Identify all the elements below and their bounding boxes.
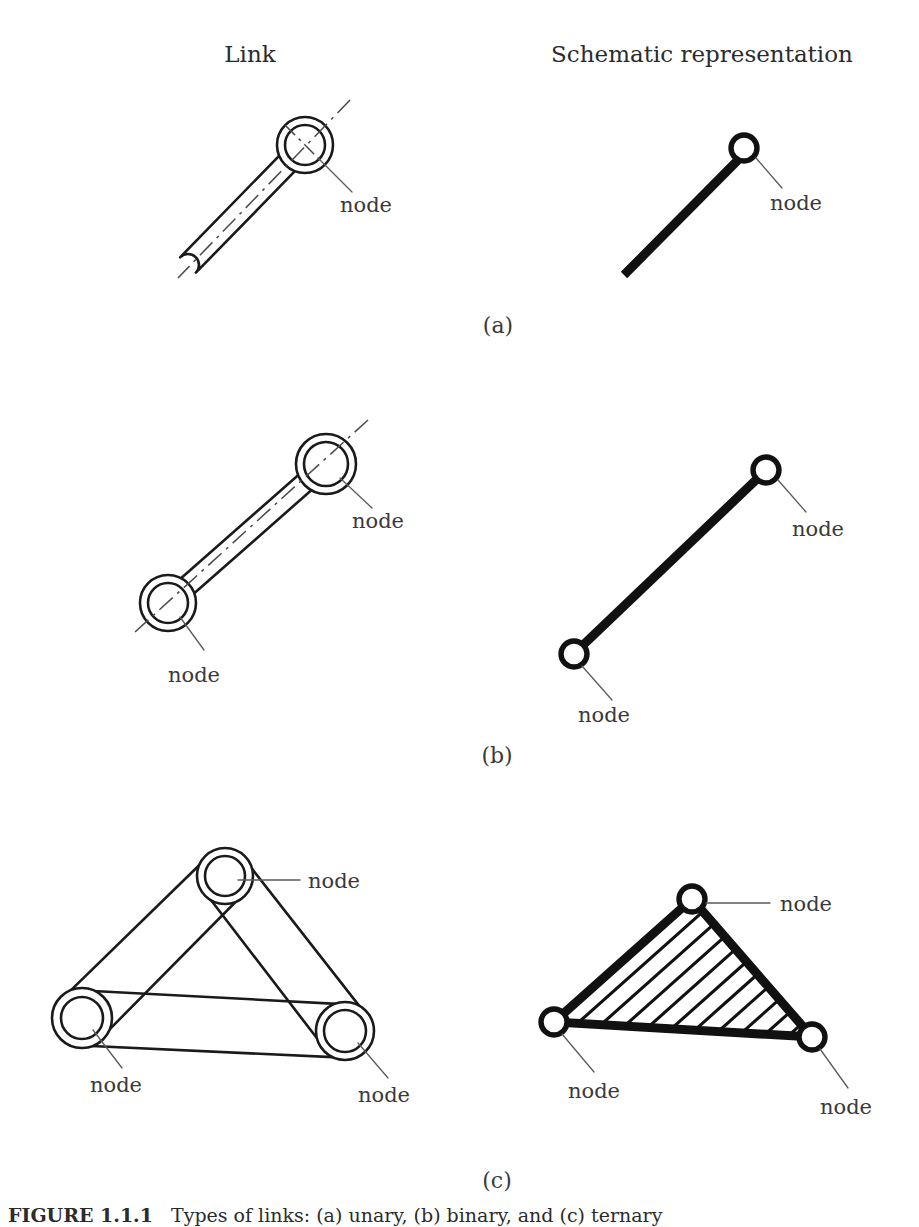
panel-c-link-node-label-1: node (308, 869, 360, 893)
panel-c-edge-1-side-1 (63, 858, 207, 999)
column-header-link: Link (224, 41, 276, 67)
panel-c-link-node-label-3: node (358, 1083, 410, 1107)
panel-c-schematic-node-circle-2 (541, 1009, 567, 1035)
panel-b-link-node-label-1: node (352, 509, 404, 533)
panel-b-bar-side-1 (161, 456, 319, 595)
panel-b-schem-node-leader-2 (582, 666, 612, 700)
panel-label-c: (c) (482, 1168, 512, 1193)
panel-c-schem-node-leader-3 (820, 1049, 848, 1088)
panel-c-schematic-node-circle-3 (799, 1024, 825, 1050)
panel-b-link-node-leader-1 (340, 478, 372, 508)
panel-label-b: (b) (481, 743, 512, 768)
panel-c-edge-3-side-1 (205, 892, 324, 1048)
panel-b-schematic-node-circle-1 (753, 457, 779, 483)
column-header-schematic: Schematic representation (551, 41, 853, 67)
panel-c-hatch-10 (580, 1024, 801, 1221)
panel-a-link-node-label-1: node (340, 193, 392, 217)
panel-c-schem-node-label-1: node (780, 892, 832, 916)
panel-label-a: (a) (483, 313, 513, 338)
figure-caption-number: FIGURE 1.1.1 (8, 1204, 153, 1226)
panel-b-link-drawing: nodenode (135, 420, 404, 687)
panel-b-schem-node-leader-1 (778, 480, 806, 512)
panel-a-link-drawing: node (178, 100, 392, 278)
panel-b-schem-node-label-1: node (792, 517, 844, 541)
panel-c-edge-2-side-2 (83, 990, 346, 1004)
panel-c-hatching (482, 912, 801, 1222)
panel-c-hatch-9 (569, 1012, 790, 1209)
panel-b-boss-inner-2 (148, 583, 188, 623)
panel-b-link-node-label-2: node (168, 663, 220, 687)
panel-c-boss-inner-2 (61, 997, 103, 1039)
panel-c-schem-node-label-2: node (568, 1079, 620, 1103)
panel-a-schematic-bar (624, 160, 738, 275)
panel-a-schematic-node-circle-1 (731, 135, 757, 161)
panel-a-schematic-drawing: node (624, 135, 822, 275)
panel-c-link-node-leader-3 (358, 1043, 388, 1078)
panel-c-schematic-node-circle-1 (679, 886, 705, 912)
panel-b-schematic-drawing: nodenode (561, 457, 844, 727)
panel-b-centerline (135, 420, 368, 632)
panel-c-boss-inner-1 (205, 856, 245, 896)
panel-c-link-drawing: nodenodenode (52, 848, 410, 1107)
panel-c-edge-2-side-1 (81, 1046, 344, 1058)
panel-a-schem-node-label-1: node (770, 191, 822, 215)
panel-a-link-node-leader-1 (318, 158, 352, 192)
figure-page: Link Schematic representation node node … (0, 0, 919, 1227)
figure-caption-text: Types of links: (a) unary, (b) binary, a… (171, 1204, 663, 1226)
figure-canvas: Link Schematic representation node node … (0, 0, 919, 1227)
panel-a-centerline (178, 100, 350, 278)
figure-caption: FIGURE 1.1.1 Types of links: (a) unary, … (8, 1204, 663, 1226)
panel-a-schem-node-leader-1 (756, 158, 782, 188)
panel-c-link-node-label-2: node (90, 1073, 142, 1097)
panel-b-schem-node-label-2: node (578, 703, 630, 727)
panel-b-schematic-bar (580, 478, 758, 648)
panel-b-schematic-node-circle-2 (561, 641, 587, 667)
panel-b-link-node-leader-2 (180, 617, 204, 650)
panel-c-schem-node-label-3: node (820, 1095, 872, 1119)
panel-b-bar-side-2 (175, 472, 333, 611)
panel-c-schematic-drawing: nodenodenode (482, 886, 872, 1221)
panel-c-schem-node-leader-2 (562, 1034, 594, 1072)
